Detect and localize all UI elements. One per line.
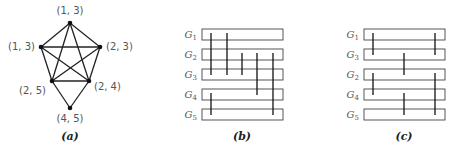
node-label: (4, 5) <box>57 113 84 124</box>
graph-edge <box>70 81 89 108</box>
graph-node <box>87 79 92 84</box>
graph-edge <box>52 81 70 108</box>
node-label: (2, 5) <box>19 85 46 96</box>
group-label: G2 <box>347 69 359 82</box>
graph-node <box>68 21 73 26</box>
panel-a-caption: (a) <box>61 130 79 143</box>
graph-node <box>98 45 103 50</box>
graph-node <box>39 45 44 50</box>
node-label: (1, 3) <box>8 41 35 52</box>
node-label: (2, 4) <box>94 81 121 92</box>
group-label: G4 <box>185 89 198 102</box>
node-label: (2, 3) <box>106 41 133 52</box>
group-label: G1 <box>185 29 197 42</box>
panel-c-caption: (c) <box>395 130 412 143</box>
panel-a-conflict-graph: (1, 3)(1, 3)(2, 3)(2, 5)(2, 4)(4, 5) <box>8 5 133 124</box>
node-label: (1, 3) <box>57 5 84 16</box>
panel-c-reordered-layout: G1G3G2G4G5 <box>347 29 445 122</box>
graph-edge <box>89 47 100 81</box>
group-label: G3 <box>185 69 197 82</box>
graph-edge <box>41 47 52 81</box>
group-label: G1 <box>347 29 359 42</box>
group-label: G2 <box>185 49 197 62</box>
graph-edge <box>70 23 89 81</box>
group-row-box <box>364 29 445 40</box>
group-row-box <box>202 89 283 100</box>
group-label: G4 <box>347 89 360 102</box>
group-label: G5 <box>185 109 197 122</box>
graph-edge <box>41 47 89 81</box>
graph-edge <box>52 23 70 81</box>
group-row-box <box>202 29 283 40</box>
graph-node <box>50 79 55 84</box>
group-label: G3 <box>347 49 359 62</box>
group-row-box <box>202 109 283 120</box>
graph-edge <box>52 47 100 81</box>
group-label: G5 <box>347 109 359 122</box>
figure-canvas: (1, 3)(1, 3)(2, 3)(2, 5)(2, 4)(4, 5) (a)… <box>0 0 456 151</box>
graph-node <box>68 106 73 111</box>
panel-b-group-layout: G1G2G3G4G5 <box>185 29 283 122</box>
panel-b-caption: (b) <box>233 130 251 143</box>
